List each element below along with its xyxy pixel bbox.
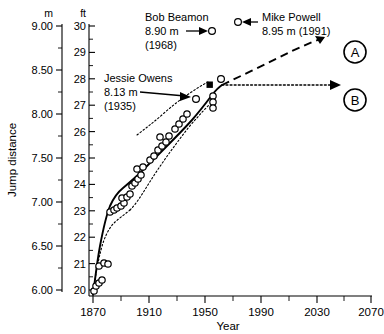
x-tick-1870: 1870: [80, 306, 106, 318]
projection-B-letter: B: [351, 93, 360, 108]
x-tick-2030: 2030: [304, 306, 330, 318]
filled-square-1968-marker: [207, 82, 213, 88]
y-axis-title: Jump distance: [6, 123, 18, 197]
chart-background: [0, 0, 384, 334]
data-point: [184, 111, 190, 117]
y-tick-ft-20: 20: [74, 284, 86, 296]
chart-svg: 6.00 6.50 7.00 7.50 8.00 8.50 9.00 m 20 …: [0, 0, 384, 334]
jessie-owens-year: (1935): [104, 100, 136, 112]
mike-powell-distance-year: 8.95 m (1991): [262, 25, 330, 37]
y-axis-unit-feet: ft: [80, 7, 86, 19]
data-point-bob-beamon: [209, 28, 216, 35]
y-tick-m-8-00: 8.00: [32, 108, 53, 120]
y-tick-m-7-50: 7.50: [32, 152, 53, 164]
mike-powell-name: Mike Powell: [262, 11, 321, 23]
bob-beamon-distance: 8.90 m: [145, 25, 179, 37]
y-tick-ft-24: 24: [74, 178, 86, 190]
y-tick-ft-21: 21: [74, 258, 86, 270]
data-point: [127, 191, 133, 197]
jessie-owens-distance: 8.13 m: [104, 86, 138, 98]
y-tick-ft-28: 28: [74, 73, 86, 85]
y-tick-m-8-50: 8.50: [32, 64, 53, 76]
y-tick-ft-27: 27: [74, 99, 86, 111]
y-tick-m-7-00: 7.00: [32, 196, 53, 208]
data-point: [166, 133, 172, 139]
data-point-jessie-owens: [193, 96, 200, 103]
projection-label-B: B: [344, 89, 366, 111]
y-tick-ft-22: 22: [74, 231, 86, 243]
data-point: [210, 105, 216, 111]
x-axis-title: Year: [216, 320, 239, 332]
projection-label-A: A: [344, 41, 366, 63]
bob-beamon-year: (1968): [145, 39, 177, 51]
y-tick-ft-30: 30: [74, 20, 86, 32]
data-point: [138, 172, 144, 178]
data-point: [218, 76, 225, 83]
data-point: [105, 261, 111, 267]
y-axis-unit-meters: m: [44, 7, 53, 19]
x-tick-2070: 2070: [358, 306, 384, 318]
x-tick-1950: 1950: [192, 306, 218, 318]
data-point: [151, 153, 157, 159]
y-tick-ft-23: 23: [74, 205, 86, 217]
y-tick-m-9-00: 9.00: [32, 20, 53, 32]
x-tick-1990: 1990: [248, 306, 274, 318]
long-jump-record-chart: 6.00 6.50 7.00 7.50 8.00 8.50 9.00 m 20 …: [0, 0, 384, 334]
data-point-mike-powell: [235, 19, 242, 26]
data-point: [140, 164, 146, 170]
y-tick-ft-26: 26: [74, 126, 86, 138]
x-tick-1910: 1910: [136, 306, 162, 318]
data-point: [157, 134, 163, 140]
projection-A-letter: A: [351, 45, 360, 60]
jessie-owens-name: Jessie Owens: [104, 72, 173, 84]
y-tick-m-6-50: 6.50: [32, 240, 53, 252]
y-tick-ft-25: 25: [74, 152, 86, 164]
bob-beamon-name: Bob Beamon: [145, 11, 209, 23]
data-point: [163, 139, 169, 145]
data-point: [99, 277, 105, 283]
y-tick-ft-29: 29: [74, 46, 86, 58]
y-tick-m-6-00: 6.00: [32, 284, 53, 296]
